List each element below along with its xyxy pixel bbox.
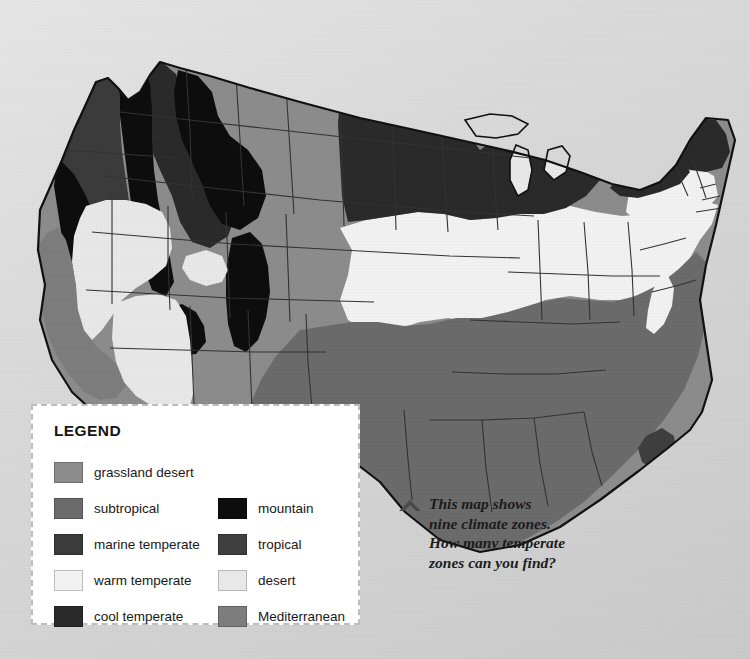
note-text: This map shows nine climate zones. How m… <box>429 494 565 572</box>
zone-cool-temperate-upper-midwest <box>338 95 604 222</box>
legend-label-desert: desert <box>258 573 296 588</box>
legend-swatch-warm-temperate <box>54 570 83 591</box>
legend-swatch-grassland-desert <box>54 462 83 483</box>
legend-column-left: grassland desert subtropical marine temp… <box>54 454 200 634</box>
legend-label-tropical: tropical <box>258 537 302 552</box>
legend-item-warm-temperate[interactable]: warm temperate <box>54 562 200 598</box>
climate-map-page: LEGEND grassland desert subtropical mari… <box>0 0 750 659</box>
legend-item-grassland-desert[interactable]: grassland desert <box>54 454 200 490</box>
map-legend: LEGEND grassland desert subtropical mari… <box>31 404 360 625</box>
legend-item-desert[interactable]: desert <box>218 562 345 598</box>
legend-item-mountain[interactable]: mountain <box>218 490 345 526</box>
triangle-up-icon <box>399 500 421 512</box>
legend-swatch-subtropical <box>54 498 83 519</box>
legend-title: LEGEND <box>54 422 121 440</box>
legend-label-subtropical: subtropical <box>94 501 159 516</box>
legend-label-mountain: mountain <box>258 501 314 516</box>
legend-swatch-tropical <box>218 534 247 555</box>
legend-swatch-mountain <box>218 498 247 519</box>
legend-label-grassland-desert: grassland desert <box>94 465 194 480</box>
map-note: This map shows nine climate zones. How m… <box>399 494 565 572</box>
legend-item-marine-temperate[interactable]: marine temperate <box>54 526 200 562</box>
legend-label-marine-temperate: marine temperate <box>94 537 200 552</box>
legend-label-cool-temperate: cool temperate <box>94 609 183 624</box>
legend-swatch-marine-temperate <box>54 534 83 555</box>
legend-item-mediterranean[interactable]: Mediterranean <box>218 598 345 634</box>
legend-label-mediterranean: Mediterranean <box>258 609 345 624</box>
legend-label-warm-temperate: warm temperate <box>94 573 192 588</box>
legend-item-tropical[interactable]: tropical <box>218 526 345 562</box>
legend-item-subtropical[interactable]: subtropical <box>54 490 200 526</box>
legend-swatch-mediterranean <box>218 606 247 627</box>
legend-swatch-cool-temperate <box>54 606 83 627</box>
legend-column-right: mountain tropical desert Mediterranean <box>218 490 345 634</box>
legend-item-cool-temperate[interactable]: cool temperate <box>54 598 200 634</box>
legend-swatch-desert <box>218 570 247 591</box>
